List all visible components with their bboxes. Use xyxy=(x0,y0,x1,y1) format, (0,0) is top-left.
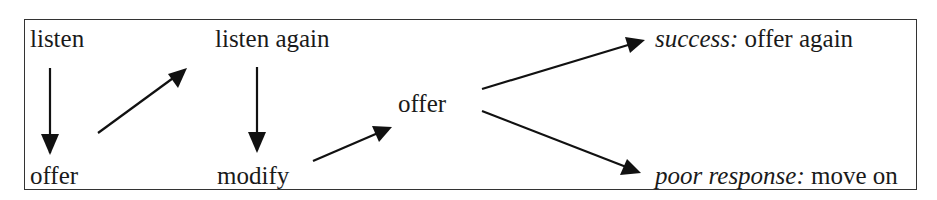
arrow-offer-to-listen-again xyxy=(98,68,187,133)
node-listen: listen xyxy=(30,26,84,51)
node-modify-label: modify xyxy=(217,162,289,189)
node-success-prefix: success: xyxy=(655,25,738,52)
node-listen-again-label: listen again xyxy=(215,25,330,52)
arrow-offer-to-poor-response xyxy=(482,111,641,175)
node-poor-response-label: move on xyxy=(805,162,898,189)
node-poor-response-prefix: poor response: xyxy=(655,162,805,189)
node-success: success: offer again xyxy=(655,26,853,51)
node-poor-response: poor response: move on xyxy=(655,163,898,188)
node-offer-middle: offer xyxy=(398,91,446,116)
arrow-listen-to-offer xyxy=(41,68,59,155)
node-offer-first-label: offer xyxy=(30,162,78,189)
arrow-modify-to-offer xyxy=(313,126,392,161)
node-modify: modify xyxy=(217,163,289,188)
node-listen-label: listen xyxy=(30,25,84,52)
arrow-offer-to-success xyxy=(482,37,645,89)
node-listen-again: listen again xyxy=(215,26,330,51)
node-offer-middle-label: offer xyxy=(398,90,446,117)
node-success-label: offer again xyxy=(738,25,853,52)
node-offer-first: offer xyxy=(30,163,78,188)
arrow-listen-again-to-modify xyxy=(248,67,266,153)
